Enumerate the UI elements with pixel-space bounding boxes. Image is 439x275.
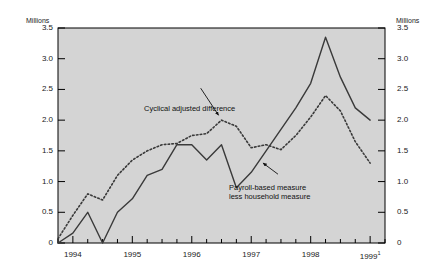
plot-area-background [58,28,385,243]
x-axis-tick-footnote-marker: 1 [377,250,380,256]
y-axis-right-tick-2.0: 2.0 [397,115,419,124]
y-axis-left-tick-3.5: 3.5 [31,23,53,32]
y-axis-left-tick-1.5: 1.5 [31,146,53,155]
chart-plot-svg [0,0,439,275]
annotation-payroll-line2: less household measure [229,192,310,201]
annotation-payroll-line1: Payroll-based measure [229,183,310,192]
y-axis-right-tick-0.5: 0.5 [397,207,419,216]
y-axis-left-tick-2.5: 2.5 [31,84,53,93]
y-axis-left-tick-1.0: 1.0 [31,177,53,186]
x-axis-tick-1997: 1997 [231,250,271,259]
annotation-cyclical-adjusted-difference: Cyclical adjusted difference [144,104,235,113]
y-axis-right-tick-3.0: 3.0 [397,54,419,63]
y-axis-right-tick-1.0: 1.0 [397,177,419,186]
x-axis-tick-1995: 1995 [112,250,152,259]
chart-container: Millions Millions 00.51.01.52.02.53.03.5… [0,0,439,275]
annotation-payroll-less-household: Payroll-based measure less household mea… [229,183,310,201]
y-axis-left-tick-0: 0 [31,238,53,247]
x-axis-tick-1999: 19991 [350,250,390,261]
y-axis-right-tick-0: 0 [397,238,419,247]
x-axis-tick-1994: 1994 [53,250,93,259]
y-axis-right-tick-1.5: 1.5 [397,146,419,155]
y-axis-left-tick-0.5: 0.5 [31,207,53,216]
x-axis-tick-1996: 1996 [172,250,212,259]
y-axis-right-tick-3.5: 3.5 [397,23,419,32]
y-axis-right-tick-2.5: 2.5 [397,84,419,93]
y-axis-left-tick-3.0: 3.0 [31,54,53,63]
y-axis-left-tick-2.0: 2.0 [31,115,53,124]
x-axis-tick-1998: 1998 [291,250,331,259]
